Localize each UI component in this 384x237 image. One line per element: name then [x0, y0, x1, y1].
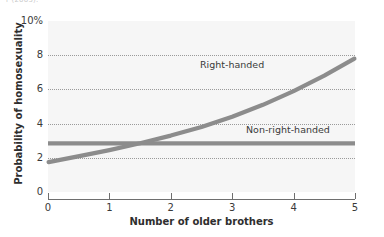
x-tick-4	[294, 193, 295, 199]
x-tick-label-2: 2	[168, 202, 174, 213]
plot-area: Right-handed Non-right-handed	[48, 21, 355, 192]
y-tick-label-8: 8	[37, 49, 43, 60]
x-tick-label-0: 0	[45, 202, 51, 213]
x-tick-5	[355, 193, 356, 199]
chart-figure: Right-handed Non-right-handed 10% 8 6 4 …	[0, 0, 384, 237]
x-axis-title: Number of older brothers	[48, 216, 355, 227]
y-axis-title: Probability of homosexuality	[13, 14, 24, 194]
x-tick-label-3: 3	[229, 202, 235, 213]
x-tick-label-1: 1	[106, 202, 112, 213]
x-tick-3	[232, 193, 233, 199]
x-tick-2	[171, 193, 172, 199]
y-tick-label-6: 6	[37, 83, 43, 94]
x-axis-line	[48, 199, 355, 200]
x-tick-0	[48, 193, 49, 199]
series-label-right-handed: Right-handed	[200, 59, 264, 70]
series-label-non-right-handed: Non-right-handed	[246, 124, 330, 135]
x-tick-label-5: 5	[352, 202, 358, 213]
x-tick-1	[109, 193, 110, 199]
series-lines	[48, 21, 355, 192]
x-tick-label-4: 4	[290, 202, 296, 213]
y-tick-label-10: 10%	[21, 15, 43, 26]
series-right-handed-line	[49, 59, 355, 163]
y-tick-label-4: 4	[37, 118, 43, 129]
y-tick-label-0: 0	[37, 186, 43, 197]
y-tick-label-2: 2	[37, 152, 43, 163]
